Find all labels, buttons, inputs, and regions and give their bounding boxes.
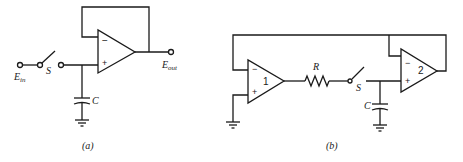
caption-b: (b) <box>326 140 338 152</box>
circuit-diagrams: − + S C Ein Eout (a) <box>0 0 463 162</box>
caption-a: (a) <box>82 140 94 152</box>
feedback-wire-a <box>82 7 149 52</box>
output-label: Eout <box>161 59 178 72</box>
resistor-label: R <box>312 61 319 72</box>
svg-text:−: − <box>405 58 410 68</box>
input-label: Ein <box>13 71 26 84</box>
svg-text:+: + <box>405 76 410 86</box>
input-terminal <box>18 63 23 68</box>
capacitor-a-label: C <box>92 95 99 106</box>
svg-text:+: + <box>102 58 107 68</box>
switch-a-contact <box>59 63 64 68</box>
opamp-1-label: 1 <box>263 76 269 87</box>
svg-text:−: − <box>252 64 257 74</box>
switch-a-blade <box>42 51 55 63</box>
svg-text:+: + <box>252 87 257 97</box>
svg-text:−: − <box>102 35 108 46</box>
switch-a-label: S <box>46 65 51 76</box>
opamp-2-label: 2 <box>418 65 424 76</box>
outer-feedback-wire <box>233 35 446 71</box>
output-terminal <box>169 50 174 55</box>
resistor <box>305 76 329 86</box>
circuit-b: − + 1 − + 2 R S C (b) <box>226 35 446 152</box>
switch-b-blade <box>352 67 364 79</box>
circuit-a: − + S C Ein Eout (a) <box>13 7 178 152</box>
switch-a-pivot <box>38 63 43 68</box>
switch-b-label: S <box>356 82 361 93</box>
feedback-wire-b <box>389 35 401 56</box>
switch-b-pivot <box>348 79 352 83</box>
capacitor-b-label: C <box>364 100 371 111</box>
